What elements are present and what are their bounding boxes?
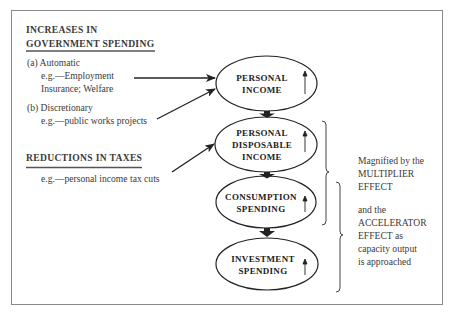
multiplier-line3: EFFECT: [358, 181, 393, 193]
gov-heading-line1: INCREASES IN: [26, 23, 98, 36]
node-label-line: INVESTMENT: [231, 253, 295, 265]
gov-heading-line2: GOVERNMENT SPENDING: [26, 37, 154, 50]
node-label-line: INCOME: [236, 84, 287, 96]
node-label-line: CONSUMPTION: [225, 191, 297, 203]
node-personal-income: PERSONAL INCOME: [226, 64, 298, 104]
node-investment-spending: INVESTMENT SPENDING: [224, 245, 302, 285]
node-consumption-spending: CONSUMPTION SPENDING: [220, 183, 302, 223]
node-label-line: SPENDING: [231, 265, 295, 277]
node-label-line: DISPOSABLE: [232, 139, 292, 151]
tax-heading: REDUCTIONS IN TAXES: [26, 151, 142, 164]
node-label-line: PERSONAL: [236, 72, 287, 84]
node-label-line: SPENDING: [225, 203, 297, 215]
automatic-example-line1: e.g.—Employment: [41, 70, 114, 82]
discretionary-arrow: [157, 89, 215, 119]
tax-cut-arrow: [172, 144, 214, 172]
automatic-example-line2: Insurance; Welfare: [41, 83, 113, 95]
accelerator-line4: capacity output: [358, 243, 417, 255]
automatic-label: (a) Automatic: [27, 57, 80, 69]
accelerator-line2: ACCELERATOR: [358, 217, 427, 229]
accelerator-line1: and the: [358, 204, 386, 216]
up-arrow-icon: [303, 196, 307, 212]
accelerator-line3: EFFECT as: [358, 230, 403, 242]
node-label-line: INCOME: [232, 151, 292, 163]
up-arrow-icon: [303, 131, 307, 152]
tax-example: e.g.—personal income tax cuts: [41, 173, 160, 185]
multiplier-line2: MULTIPLIER: [358, 168, 414, 180]
accelerator-bracket: [336, 182, 343, 292]
discretionary-example: e.g.—public works projects: [41, 115, 147, 127]
flow-arrow-2: [259, 172, 275, 179]
node-personal-disposable-income: PERSONAL DISPOSABLE INCOME: [222, 122, 302, 168]
discretionary-label: (b) Discretionary: [27, 102, 93, 114]
node-label-line: PERSONAL: [232, 127, 292, 139]
accelerator-line5: is approached: [358, 256, 411, 268]
multiplier-bracket: [322, 121, 329, 225]
multiplier-line1: Magnified by the: [358, 155, 424, 167]
up-arrow-icon: [303, 71, 307, 94]
flow-arrow-3: [259, 228, 275, 237]
up-arrow-icon: [303, 259, 307, 275]
